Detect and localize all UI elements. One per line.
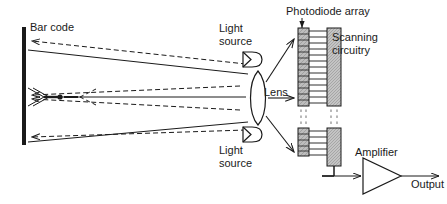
array-to-circuitry-rungs-upper [309, 31, 327, 103]
photodiode-array-upper [298, 28, 309, 106]
barcode-bar [22, 27, 26, 145]
output-label: Output [411, 178, 444, 191]
scanning-circuitry-lower-block [327, 128, 341, 166]
photodiode-array-label: Photodiode array [286, 5, 370, 18]
light-source-bottom-label: Light source [219, 144, 252, 170]
photodiode-array-lower [298, 128, 309, 156]
dashed-reflected-rays [32, 41, 246, 137]
array-continuation-dots [301, 110, 337, 125]
amplifier-label: Amplifier [355, 146, 398, 159]
barcode-label: Bar code [30, 21, 74, 34]
lens-label: Lens [264, 86, 288, 99]
barcode-scanner-diagram: Bar code Light source Light source Lens … [0, 0, 447, 204]
light-source-top-label: Light source [219, 22, 252, 48]
light-source-top-shape [243, 52, 262, 67]
amplifier-symbol [363, 158, 401, 194]
scanning-circuitry-label: Scanning circuitry [332, 31, 378, 57]
array-to-circuitry-rungs-lower [309, 131, 327, 155]
circuitry-to-amplifier-wire [322, 166, 361, 176]
light-source-bottom-shape [243, 127, 262, 142]
